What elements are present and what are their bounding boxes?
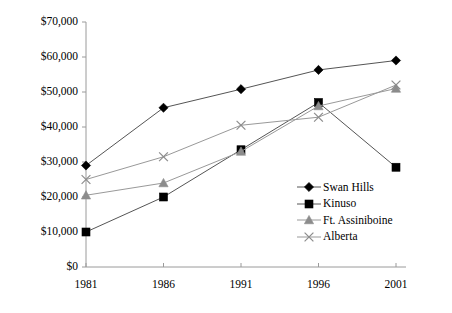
legend-marker-triangle-icon [296, 212, 322, 228]
data-point-diamond [391, 56, 400, 65]
data-point-diamond [236, 85, 245, 94]
legend-label: Swan Hills [322, 182, 374, 194]
data-point-diamond [159, 103, 168, 112]
x-axis-tick-label: 1986 [134, 279, 194, 291]
x-axis-tick-label: 1991 [211, 279, 271, 291]
x-axis-tick-label: 2001 [366, 279, 426, 291]
y-axis-tick-label: $10,000 [12, 226, 78, 238]
legend-marker-diamond-icon [296, 179, 322, 195]
y-axis-tick-label: $40,000 [12, 121, 78, 133]
y-axis-tick-label: $60,000 [12, 51, 78, 63]
y-axis-tick-label: $20,000 [12, 191, 78, 203]
y-axis-tick-label: $50,000 [12, 86, 78, 98]
legend-item-ft-assiniboine: Ft. Assiniboine [296, 212, 436, 229]
data-point-square [392, 163, 400, 171]
data-point-square [305, 200, 313, 208]
legend-item-swan-hills: Swan Hills [296, 179, 436, 196]
y-axis-tick-label: $70,000 [12, 16, 78, 28]
legend-item-alberta: Alberta [296, 229, 436, 246]
legend-item-kinuso: Kinuso [296, 196, 436, 213]
data-point-x [159, 152, 168, 161]
data-point-square [82, 228, 90, 236]
data-point-diamond [304, 183, 313, 192]
data-point-triangle [159, 178, 168, 186]
data-point-square [160, 193, 168, 201]
chart-legend: Swan HillsKinusoFt. AssiniboineAlberta [296, 179, 436, 245]
data-point-diamond [314, 65, 323, 74]
legend-label: Ft. Assiniboine [322, 215, 393, 227]
series-alberta [82, 81, 401, 184]
y-axis-tick-label: $0 [12, 261, 78, 273]
x-axis-tick-label: 1996 [289, 279, 349, 291]
y-axis-tick-label: $30,000 [12, 156, 78, 168]
legend-label: Alberta [322, 231, 357, 243]
line-chart: $70,000$60,000$50,000$40,000$30,000$20,0… [0, 0, 452, 313]
legend-marker-x-icon [296, 229, 322, 245]
x-axis-tick-label: 1981 [56, 279, 116, 291]
legend-label: Kinuso [322, 198, 356, 210]
legend-marker-square-icon [296, 196, 322, 212]
